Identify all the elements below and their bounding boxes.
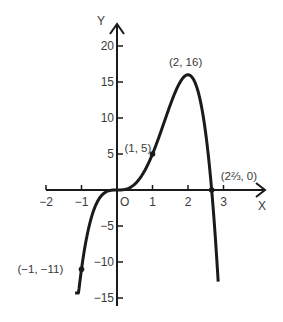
axes bbox=[46, 24, 265, 306]
x-tick-label: 2 bbox=[185, 195, 192, 209]
point-label: (1, 5) bbox=[125, 142, 152, 154]
x-axis-label: X bbox=[258, 199, 266, 213]
point-label: (2⅔, 0) bbox=[221, 170, 258, 182]
data-point-marker bbox=[79, 266, 85, 272]
data-point-marker bbox=[209, 187, 215, 193]
y-tick-label: −15 bbox=[94, 291, 115, 305]
x-tick-label: −1 bbox=[75, 195, 89, 209]
point-label: (2, 16) bbox=[169, 56, 202, 68]
x-tick-label: 1 bbox=[149, 195, 156, 209]
y-tick-label: 5 bbox=[107, 147, 114, 161]
x-tick-label: −2 bbox=[39, 195, 53, 209]
y-tick-label: 10 bbox=[101, 111, 115, 125]
point-labels: (−1, −11)(1, 5)(2, 16)(2⅔, 0) bbox=[18, 56, 258, 275]
x-tick-label: 3 bbox=[220, 195, 227, 209]
y-tick-label: 15 bbox=[101, 75, 115, 89]
y-axis-label: Y bbox=[97, 14, 105, 28]
origin-label: O bbox=[120, 195, 129, 209]
function-graph: −2−11232015105−5−10−15 (−1, −11)(1, 5)(2… bbox=[0, 0, 283, 322]
point-label: (−1, −11) bbox=[18, 263, 64, 275]
y-tick-label: −5 bbox=[100, 219, 114, 233]
axis-ticks: −2−11232015105−5−10−15 bbox=[39, 39, 227, 305]
y-tick-label: 20 bbox=[101, 39, 115, 53]
y-tick-label: −10 bbox=[94, 255, 115, 269]
